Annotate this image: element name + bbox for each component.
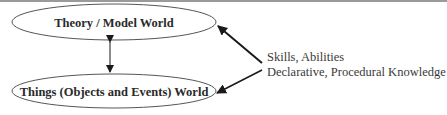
theory-model-world-label: Theory / Model World xyxy=(54,16,174,31)
skills-abilities-label: Skills, Abilities xyxy=(267,50,344,64)
knowledge-label: Declarative, Procedural Knowledge xyxy=(267,65,446,79)
things-world-label: Things (Objects and Events) World xyxy=(20,85,209,100)
arrow-to-theory xyxy=(218,26,262,63)
diagram-canvas: Theory / Model World Things (Objects and… xyxy=(0,0,447,115)
arrow-to-things xyxy=(217,70,262,93)
